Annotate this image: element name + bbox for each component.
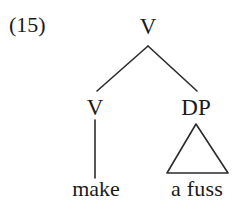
tree-node-root-v: V: [140, 15, 157, 38]
triangle-dp-a-fuss: [167, 124, 228, 173]
branch-root-to-right-child: [148, 46, 197, 91]
branch-root-to-left-child: [97, 46, 148, 91]
tree-leaf-make: make: [72, 178, 120, 200]
tree-node-right-dp: DP: [181, 96, 210, 119]
tree-leaf-a-fuss: a fuss: [171, 178, 223, 200]
tree-node-left-v: V: [87, 96, 104, 119]
syntax-tree-figure: (15) V V DP make a fuss: [0, 0, 241, 207]
